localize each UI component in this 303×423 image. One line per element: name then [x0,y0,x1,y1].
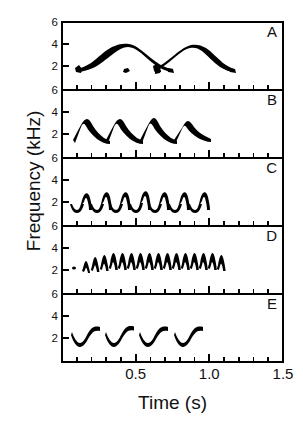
x-tick-1-5: 1.5 [263,366,303,381]
panel-stack: A B [62,22,283,362]
x-tick-1-0: 1.0 [189,366,229,381]
x-tick-0-5: 0.5 [116,366,156,381]
panel-a-trace [62,22,283,90]
panel-d-trace [62,226,283,294]
panel-c: C [62,158,283,226]
panel-b-trace [62,90,283,158]
panel-d: D [62,226,283,294]
x-axis-title: Time (s) [62,392,283,414]
x-axis-tick-labels: 0.5 1.0 1.5 [0,366,303,386]
panel-e-trace [62,294,283,362]
panel-c-trace [62,158,283,226]
panel-letter-a: A [267,24,277,39]
panel-letter-d: D [266,228,277,243]
spectrogram-figure: Frequency (kHz) 6 4 2 6 4 2 6 4 2 6 4 2 … [0,0,303,423]
panel-letter-b: B [267,92,277,107]
panel-e: E [62,294,283,362]
panel-a: A [62,22,283,90]
panel-b: B [62,90,283,158]
panel-letter-e: E [267,296,277,311]
panel-letter-c: C [266,160,277,175]
